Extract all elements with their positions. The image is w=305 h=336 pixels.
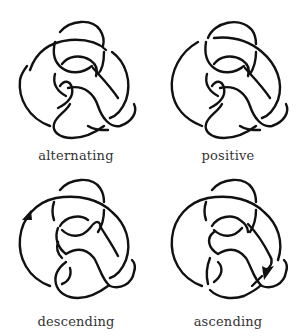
knot-diagram-ascending <box>152 168 304 318</box>
panel-ascending: ascending <box>152 168 304 336</box>
label-positive: positive <box>152 148 304 163</box>
knot-diagram-descending <box>0 168 152 318</box>
panel-descending: descending <box>0 168 152 336</box>
knot-diagram-positive <box>152 0 304 150</box>
label-alternating: alternating <box>0 148 152 163</box>
orientation-arrow-icon <box>262 266 274 280</box>
knot-diagram-alternating <box>0 0 152 150</box>
label-ascending: ascending <box>152 314 304 329</box>
label-descending: descending <box>0 314 152 329</box>
orientation-arrow-icon <box>22 210 32 220</box>
panel-alternating: alternating <box>0 0 152 168</box>
panel-positive: positive <box>152 0 304 168</box>
